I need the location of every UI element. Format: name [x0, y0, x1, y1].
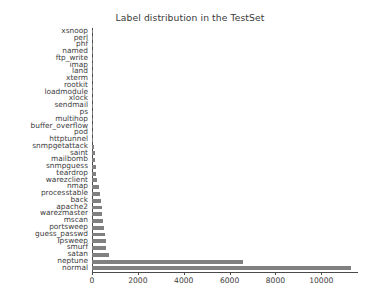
- bar: [92, 138, 93, 142]
- bar-row: land: [0, 69, 380, 76]
- bar-row: ftp_write: [0, 55, 380, 62]
- bar: [92, 43, 93, 47]
- x-tick-label: 4000: [174, 276, 193, 285]
- bar: [92, 63, 93, 67]
- bar: [92, 212, 102, 216]
- bar: [92, 151, 95, 155]
- bar-row: sendmail: [0, 102, 380, 109]
- bar: [92, 111, 93, 115]
- bar: [92, 178, 97, 182]
- bar: [92, 253, 109, 257]
- bar: [92, 97, 93, 101]
- bar: [92, 57, 93, 61]
- bar: [92, 124, 93, 128]
- bar-row: processtable: [0, 190, 380, 197]
- bar: [92, 199, 101, 203]
- bar: [92, 192, 100, 196]
- bar-row: normal: [0, 265, 380, 272]
- bar: [92, 172, 96, 176]
- bar-row: smurf: [0, 245, 380, 252]
- bar: [92, 239, 106, 243]
- x-tick-label: 2000: [128, 276, 147, 285]
- bar: [92, 90, 93, 94]
- bar: [92, 131, 93, 135]
- bar-rows: xsnoopperlphfnamedftp_writeimaplandxterm…: [0, 28, 380, 272]
- bar: [92, 260, 243, 264]
- x-tick-label: 6000: [220, 276, 239, 285]
- x-tick-mark: [275, 272, 276, 275]
- bar: [92, 158, 95, 162]
- x-tick-mark: [92, 272, 93, 275]
- bar: [92, 266, 351, 270]
- bar: [92, 36, 93, 40]
- bar: [92, 118, 93, 122]
- bar: [92, 226, 104, 230]
- x-tick-mark: [138, 272, 139, 275]
- bar: [92, 246, 106, 250]
- bar-row: snmpgetattack: [0, 143, 380, 150]
- bar-row: imap: [0, 62, 380, 69]
- x-tick-label: 0: [90, 276, 95, 285]
- bar: [92, 50, 93, 54]
- bar-row: buffer_overflow: [0, 123, 380, 130]
- bar-row: perl: [0, 35, 380, 42]
- bar: [92, 165, 96, 169]
- bar: [92, 104, 93, 108]
- bar: [92, 84, 93, 88]
- bar: [92, 206, 102, 210]
- bar-row: xterm: [0, 75, 380, 82]
- bar-row: xsnoop: [0, 28, 380, 35]
- x-tick-label: 10000: [309, 276, 333, 285]
- x-tick-mark: [321, 272, 322, 275]
- x-tick-mark: [230, 272, 231, 275]
- bar: [92, 219, 103, 223]
- bar-row: Ipsweep: [0, 238, 380, 245]
- x-tick-mark: [184, 272, 185, 275]
- bar-row: warezmaster: [0, 211, 380, 218]
- bar-row: phf: [0, 42, 380, 49]
- bar-row: warezclient: [0, 177, 380, 184]
- bar-row: neptune: [0, 258, 380, 265]
- bar: [92, 77, 93, 81]
- x-tick-label: 8000: [266, 276, 285, 285]
- chart-figure: Label distribution in the TestSet xsnoop…: [0, 0, 380, 306]
- bar: [92, 185, 99, 189]
- bar: [92, 30, 93, 34]
- chart-title: Label distribution in the TestSet: [0, 12, 380, 23]
- bar: [92, 145, 94, 149]
- bar-row: loadmodule: [0, 89, 380, 96]
- category-label: normal: [62, 264, 88, 272]
- bar: [92, 70, 93, 74]
- bar: [92, 233, 105, 237]
